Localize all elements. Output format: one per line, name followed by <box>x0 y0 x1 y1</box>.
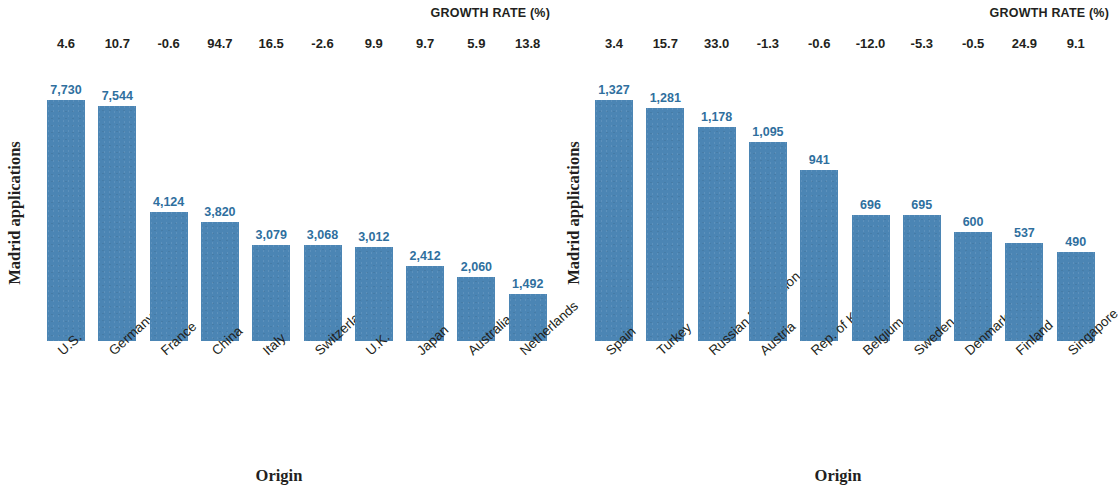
plot-area-left: 7,730U.S.7,544Germany4,124France3,820Chi… <box>0 0 558 499</box>
bar-value-label: 600 <box>963 215 984 229</box>
bar-value-label: 941 <box>809 153 830 167</box>
bar-value-label: 537 <box>1014 226 1035 240</box>
bar-value-label: 1,178 <box>701 110 732 124</box>
x-axis-label-right: Origin <box>559 466 1117 486</box>
bar-value-label: 3,079 <box>256 228 287 242</box>
bar-value-label: 1,095 <box>752 125 783 139</box>
bar <box>698 127 736 341</box>
bar-value-label: 1,281 <box>650 91 681 105</box>
bar-value-label: 3,820 <box>204 205 235 219</box>
bar-value-label: 1,327 <box>598 83 629 97</box>
chart-panel-left: GROWTH RATE (%) 4.610.7-0.694.716.5-2.69… <box>0 0 558 499</box>
bar <box>150 212 188 341</box>
bar-value-label: 695 <box>911 198 932 212</box>
bar <box>646 108 684 341</box>
bar <box>47 100 85 341</box>
bar-value-label: 4,124 <box>153 195 184 209</box>
bar-value-label: 3,068 <box>307 228 338 242</box>
bar <box>800 170 838 341</box>
bar <box>252 245 290 341</box>
bar <box>201 222 239 341</box>
bar-value-label: 7,544 <box>102 89 133 103</box>
plot-area-right: 1,327Spain1,281Turkey1,178Russian Federa… <box>559 0 1117 499</box>
bar <box>749 142 787 341</box>
bar <box>355 247 393 341</box>
bar-value-label: 7,730 <box>50 83 81 97</box>
bar <box>903 215 941 341</box>
chart-panel-right: GROWTH RATE (%) 3.415.733.0-1.3-0.6-12.0… <box>559 0 1117 499</box>
bar <box>595 100 633 341</box>
x-axis-label-left: Origin <box>0 466 558 486</box>
bar-value-label: 3,012 <box>358 230 389 244</box>
bar-value-label: 2,060 <box>461 260 492 274</box>
bar <box>98 106 136 341</box>
bar-value-label: 490 <box>1065 235 1086 249</box>
bar-value-label: 696 <box>860 198 881 212</box>
bar-value-label: 1,492 <box>512 277 543 291</box>
bar <box>852 215 890 341</box>
bar-value-label: 2,412 <box>409 249 440 263</box>
